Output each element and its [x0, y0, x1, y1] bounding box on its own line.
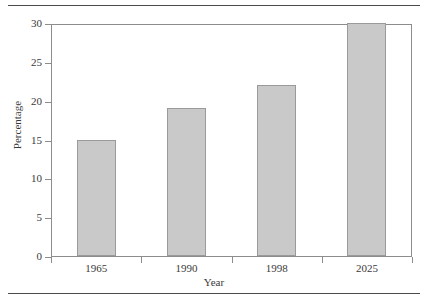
y-axis-tick [45, 179, 51, 180]
x-axis-tick-label: 2025 [322, 262, 412, 275]
y-axis-tick-label: 0 [2, 251, 42, 262]
x-axis-tick-label: 1965 [51, 262, 141, 275]
bar-chart-figure: 051015202530 1965199019982025 Percentage… [0, 0, 428, 304]
bar-1998[interactable] [257, 85, 296, 256]
x-axis-tick-label: 1990 [141, 262, 231, 275]
bar-1990[interactable] [167, 108, 206, 256]
bar-2025[interactable] [347, 23, 386, 256]
x-axis-title: Year [0, 276, 428, 288]
bar-slot [321, 25, 411, 256]
bar-1965[interactable] [77, 140, 116, 257]
y-axis-title: Percentage [11, 70, 23, 180]
bar-slot [52, 25, 142, 256]
y-axis-tick [45, 24, 51, 25]
y-axis-tick [45, 102, 51, 103]
plot-area [51, 24, 412, 257]
bar-slot [142, 25, 232, 256]
bar-slot [232, 25, 322, 256]
y-axis-tick-label: 5 [2, 212, 42, 223]
y-axis-tick-label: 30 [2, 18, 42, 29]
y-axis-tick [45, 218, 51, 219]
x-axis-tick-label: 1998 [232, 262, 322, 275]
y-axis-tick [45, 63, 51, 64]
y-axis-tick-label: 25 [2, 57, 42, 68]
bar-series [52, 25, 411, 256]
x-axis-tick [412, 257, 413, 263]
y-axis-tick [45, 141, 51, 142]
